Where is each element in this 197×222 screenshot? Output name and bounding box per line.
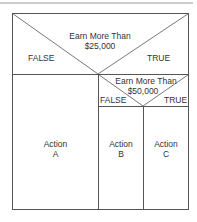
action-line1: Action bbox=[99, 139, 143, 149]
decision2-condition: Earn More Than $50,000 bbox=[106, 76, 186, 96]
action-line2: A bbox=[13, 149, 98, 159]
decision1-false-label: FALSE bbox=[28, 53, 54, 63]
action-line2: B bbox=[99, 149, 143, 159]
action-b: Action B bbox=[99, 139, 143, 159]
condition-line2: $25,000 bbox=[60, 41, 140, 51]
action-a: Action A bbox=[13, 139, 98, 159]
decision1-true-label: TRUE bbox=[147, 53, 170, 63]
action-c: Action C bbox=[144, 139, 188, 159]
condition-line1: Earn More Than bbox=[106, 76, 186, 86]
action-line2: C bbox=[144, 149, 188, 159]
decision2-true-label: TRUE bbox=[164, 95, 187, 105]
decision1-condition: Earn More Than $25,000 bbox=[60, 31, 140, 51]
action-line1: Action bbox=[13, 139, 98, 149]
condition-line1: Earn More Than bbox=[60, 31, 140, 41]
action-line1: Action bbox=[144, 139, 188, 149]
decision2-false-label: FALSE bbox=[100, 95, 126, 105]
